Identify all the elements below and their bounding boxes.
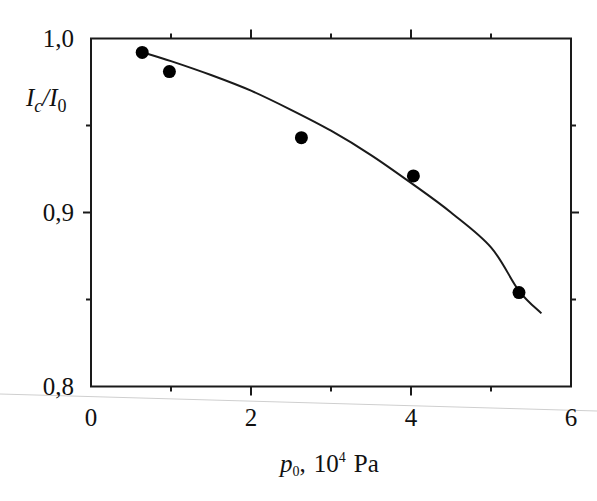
x-tick-label: 4 — [405, 404, 418, 431]
y-tick-label: 1,0 — [43, 25, 74, 52]
x-axis-label: p0,104Pa — [278, 450, 379, 479]
data-point — [407, 169, 420, 182]
x-tick-label: 0 — [85, 404, 98, 431]
y-axis-label: Ic/I0 — [25, 84, 67, 116]
chart: 02460,80,91,0 Ic/I0 p0,104Pa — [0, 0, 597, 501]
plot-frame — [91, 39, 571, 387]
x-tick-label: 6 — [565, 404, 578, 431]
data-point — [163, 65, 176, 78]
axis-ticks — [83, 30, 579, 396]
data-markers — [136, 46, 526, 299]
fit-curve — [143, 52, 541, 313]
y-tick-label: 0,8 — [43, 373, 74, 400]
x-tick-label: 2 — [245, 404, 258, 431]
data-point — [295, 131, 308, 144]
y-tick-label: 0,9 — [43, 199, 74, 226]
tick-labels: 02460,80,91,0 — [43, 25, 578, 432]
data-point — [136, 46, 149, 59]
data-point — [513, 286, 526, 299]
